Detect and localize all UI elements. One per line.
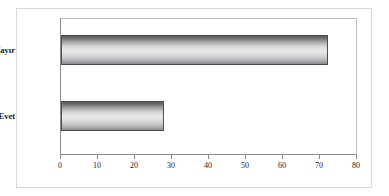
x-tick-label-80: 80 — [344, 161, 368, 171]
x-tick-label-20: 20 — [122, 161, 146, 171]
x-tick-label-0: 0 — [48, 161, 72, 171]
x-tick-mark — [319, 155, 320, 159]
x-tick-label-10: 10 — [85, 161, 109, 171]
x-tick-label-60: 60 — [270, 161, 294, 171]
x-tick-mark — [97, 155, 98, 159]
x-tick-label-30: 30 — [159, 161, 183, 171]
bar-chart: 0 10 20 30 40 50 60 70 80 Hayır Evet — [0, 0, 389, 196]
x-tick-label-70: 70 — [307, 161, 331, 171]
x-tick-mark — [60, 155, 61, 159]
x-tick-mark — [208, 155, 209, 159]
x-tick-mark — [356, 155, 357, 159]
category-label-evet: Evet — [0, 111, 15, 121]
category-label-hayir: Hayır — [0, 45, 15, 55]
category-axis-line — [60, 18, 61, 155]
x-tick-label-40: 40 — [196, 161, 220, 171]
bar-hayir — [61, 35, 328, 65]
x-tick-label-50: 50 — [233, 161, 257, 171]
x-tick-mark — [171, 155, 172, 159]
x-tick-mark — [245, 155, 246, 159]
x-tick-mark — [282, 155, 283, 159]
x-tick-mark — [134, 155, 135, 159]
bar-evet — [61, 101, 164, 131]
